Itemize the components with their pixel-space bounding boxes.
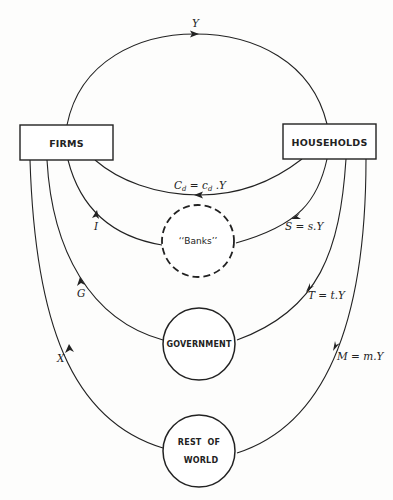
flow-label-saving: S = s.Y [285,220,324,232]
arrow-up-left-icon [92,210,99,219]
circular-flow-diagram: Y Cd = cd .Y S = s.Y I T = t.Y G M = m.Y [0,0,393,500]
node-banks-label: ‘‘Banks’’ [179,236,218,246]
node-rest-of-world-label-2: WORLD [184,456,219,465]
node-rest-of-world-label-1: REST OF [178,438,220,447]
arrow-down-left-icon [291,213,301,219]
flow-label-government-spending: G [77,287,85,299]
node-households: HOUSEHOLDS [283,124,376,159]
flow-label-exports: X [56,352,65,364]
node-government-label: GOVERNMENT [166,340,232,349]
flow-label-investment: I [93,220,99,232]
flow-consumption: Cd = cd .Y [95,159,302,199]
node-banks: ‘‘Banks’’ [162,205,234,277]
node-firms: FIRMS [20,125,113,160]
node-rest-of-world: REST OF WORLD [163,415,235,487]
node-government: GOVERNMENT [163,308,235,380]
flow-imports: M = m.Y [237,159,385,453]
flow-exports: X [30,160,163,448]
flow-saving: S = s.Y [236,159,327,243]
node-households-label: HOUSEHOLDS [292,137,368,148]
node-firms-label: FIRMS [49,138,84,149]
flow-label-imports: M = m.Y [336,350,385,362]
flow-label-consumption: Cd = cd .Y [174,179,227,193]
flow-label-taxes: T = t.Y [308,289,346,301]
flow-income: Y [67,17,327,125]
arrow-up-icon [65,344,74,353]
flow-investment: I [68,160,162,245]
flow-label-y: Y [192,17,200,29]
